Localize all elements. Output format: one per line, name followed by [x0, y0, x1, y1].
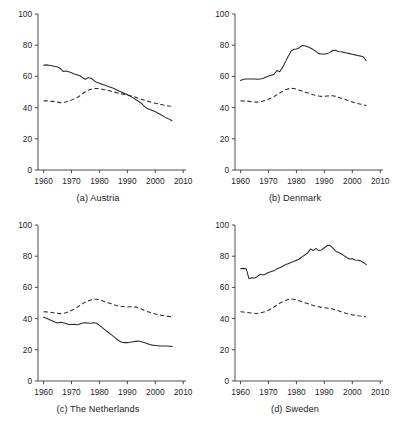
panel-caption-austria: (a) Austria [0, 193, 196, 203]
y-tick-label: 40 [23, 103, 33, 113]
y-tick-label: 60 [23, 71, 33, 81]
x-tick-label: 1970 [62, 387, 81, 397]
x-tick-label: 1970 [259, 176, 278, 186]
x-tick-label: 1970 [259, 387, 278, 397]
panel-caption-netherlands: (c) The Netherlands [0, 404, 196, 414]
x-tick-label: 2010 [174, 387, 193, 397]
x-tick-label: 1960 [231, 387, 250, 397]
chart-netherlands: 020406080100196019701980199020002010 [0, 211, 196, 407]
y-tick-label: 100 [18, 220, 32, 230]
series-line-solid-series [241, 46, 367, 81]
x-tick-label: 1980 [287, 176, 306, 186]
x-tick-label: 1990 [118, 387, 137, 397]
x-tick-label: 1960 [34, 387, 53, 397]
y-tick-label: 20 [220, 345, 230, 355]
axes-sweden: 020406080100196019701980199020002010 [215, 220, 390, 397]
x-tick-label: 1990 [315, 387, 334, 397]
y-tick-label: 60 [23, 282, 33, 292]
panel-caption-denmark: (b) Denmark [197, 193, 393, 203]
y-tick-label: 20 [23, 345, 33, 355]
panel-netherlands: 020406080100196019701980199020002010 (c)… [0, 211, 196, 422]
series-line-dashed-series [44, 88, 172, 106]
series-line-solid-series [44, 65, 172, 121]
x-tick-label: 1990 [315, 176, 334, 186]
panel-sweden: 020406080100196019701980199020002010 (d)… [197, 211, 393, 422]
x-tick-label: 2000 [343, 387, 362, 397]
y-tick-label: 80 [220, 251, 230, 261]
series-netherlands [44, 299, 172, 346]
panel-austria: 020406080100196019701980199020002010 (a)… [0, 0, 196, 211]
series-line-dashed-series [241, 88, 367, 105]
chart-denmark: 020406080100196019701980199020002010 [197, 0, 393, 196]
series-line-dashed-series [44, 299, 172, 316]
y-tick-label: 40 [220, 103, 230, 113]
y-tick-label: 40 [23, 314, 33, 324]
figure-panel-grid: 020406080100196019701980199020002010 (a)… [0, 0, 393, 423]
series-line-dashed-series [241, 299, 367, 317]
y-tick-label: 0 [224, 376, 229, 386]
y-tick-label: 40 [220, 314, 230, 324]
panel-caption-sweden: (d) Sweden [197, 404, 393, 414]
y-tick-label: 0 [27, 165, 32, 175]
x-tick-label: 1970 [62, 176, 81, 186]
x-tick-label: 2000 [146, 176, 165, 186]
y-tick-label: 60 [220, 71, 230, 81]
x-tick-label: 2000 [146, 387, 165, 397]
x-tick-label: 1960 [231, 176, 250, 186]
x-tick-label: 1980 [287, 387, 306, 397]
series-sweden [241, 245, 367, 317]
y-tick-label: 0 [224, 165, 229, 175]
axes-denmark: 020406080100196019701980199020002010 [215, 9, 390, 186]
y-tick-label: 80 [220, 40, 230, 50]
x-tick-label: 2010 [174, 176, 193, 186]
chart-sweden: 020406080100196019701980199020002010 [197, 211, 393, 407]
x-tick-label: 2010 [371, 387, 390, 397]
y-tick-label: 60 [220, 282, 230, 292]
y-tick-label: 20 [220, 134, 230, 144]
axes-austria: 020406080100196019701980199020002010 [18, 9, 193, 186]
y-tick-label: 80 [23, 40, 33, 50]
y-tick-label: 100 [215, 9, 229, 19]
series-denmark [241, 46, 367, 106]
panel-denmark: 020406080100196019701980199020002010 (b)… [197, 0, 393, 211]
x-tick-label: 2000 [343, 176, 362, 186]
series-line-solid-series [241, 245, 367, 278]
y-tick-label: 20 [23, 134, 33, 144]
series-austria [44, 65, 172, 121]
x-tick-label: 1980 [90, 176, 109, 186]
y-tick-label: 100 [215, 220, 229, 230]
x-tick-label: 1980 [90, 387, 109, 397]
chart-austria: 020406080100196019701980199020002010 [0, 0, 196, 196]
y-tick-label: 80 [23, 251, 33, 261]
x-tick-label: 2010 [371, 176, 390, 186]
axes-netherlands: 020406080100196019701980199020002010 [18, 220, 193, 397]
y-tick-label: 0 [27, 376, 32, 386]
y-tick-label: 100 [18, 9, 32, 19]
x-tick-label: 1990 [118, 176, 137, 186]
series-line-solid-series [44, 317, 172, 346]
x-tick-label: 1960 [34, 176, 53, 186]
